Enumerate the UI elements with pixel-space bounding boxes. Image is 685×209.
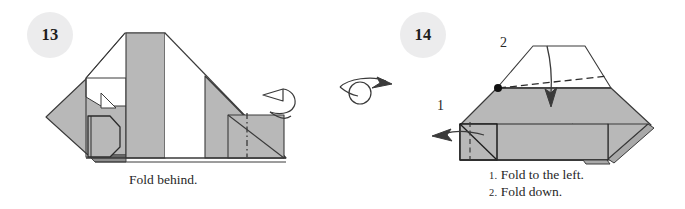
origami-instruction-page: 13	[0, 0, 685, 209]
figure14-bottom-tab	[583, 160, 610, 164]
caption-step-14-line-2: 2. Fold down.	[489, 184, 584, 201]
caption-step-14-num-2: 2.	[489, 187, 497, 198]
caption-step-14-line-1: 1. Fold to the left.	[489, 167, 584, 184]
reference-point-dot	[494, 84, 502, 92]
figure14-right-fold-triangle	[608, 124, 648, 159]
figure14-paper	[460, 46, 654, 164]
fold-left-arrowhead	[432, 129, 452, 141]
caption-step-14-text-2: Fold down.	[501, 184, 563, 199]
fold-label-1: 1	[437, 98, 444, 113]
caption-step-14: 1. Fold to the left. 2. Fold down.	[489, 167, 584, 201]
caption-step-14-text-1: Fold to the left.	[501, 167, 584, 182]
fold-label-2: 2	[500, 35, 507, 50]
caption-step-14-num-1: 1.	[489, 170, 497, 181]
